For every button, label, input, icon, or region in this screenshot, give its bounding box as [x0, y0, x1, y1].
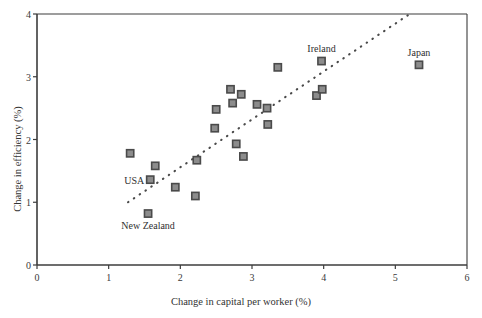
x-tick-label: 3 [250, 272, 255, 283]
data-point-marker [213, 106, 220, 113]
x-tick-label: 1 [106, 272, 111, 283]
x-tick-label: 6 [465, 272, 470, 283]
axes [33, 14, 467, 269]
data-point-marker [152, 162, 159, 169]
data-point-marker [274, 64, 281, 71]
point-label-japan: Japan [408, 47, 431, 58]
data-point-marker [192, 192, 199, 199]
x-tick-label: 0 [35, 272, 40, 283]
data-point-marker [193, 157, 200, 164]
data-point-marker [264, 121, 271, 128]
data-points [127, 57, 423, 217]
data-point-marker [240, 153, 247, 160]
data-point-marker [263, 105, 270, 112]
y-axis-title: Change in efficiency (%) [0, 0, 11, 318]
data-point-marker [318, 57, 325, 64]
data-point-marker [253, 101, 260, 108]
data-point-marker [319, 86, 326, 93]
point-label-usa: USA [124, 174, 144, 185]
data-point-marker [144, 210, 151, 217]
data-point-marker [238, 91, 245, 98]
data-point-marker [127, 150, 134, 157]
data-point-marker [415, 61, 422, 68]
data-point-marker [172, 184, 179, 191]
data-point-marker [147, 176, 154, 183]
scatter-plot-figure: 012345601234 New ZealandUSAIrelandJapan … [0, 0, 482, 318]
x-axis-title: Change in capital per worker (%) [0, 296, 482, 307]
data-point-marker [229, 100, 236, 107]
y-axis-title-text: Change in efficiency (%) [12, 0, 23, 318]
data-point-marker [227, 86, 234, 93]
data-point-marker [211, 125, 218, 132]
x-tick-label: 2 [178, 272, 183, 283]
point-label-ireland: Ireland [307, 43, 335, 54]
x-tick-label: 5 [393, 272, 398, 283]
x-tick-label: 4 [321, 272, 326, 283]
data-point-marker [233, 140, 240, 147]
point-label-new-zealand: New Zealand [121, 220, 175, 231]
